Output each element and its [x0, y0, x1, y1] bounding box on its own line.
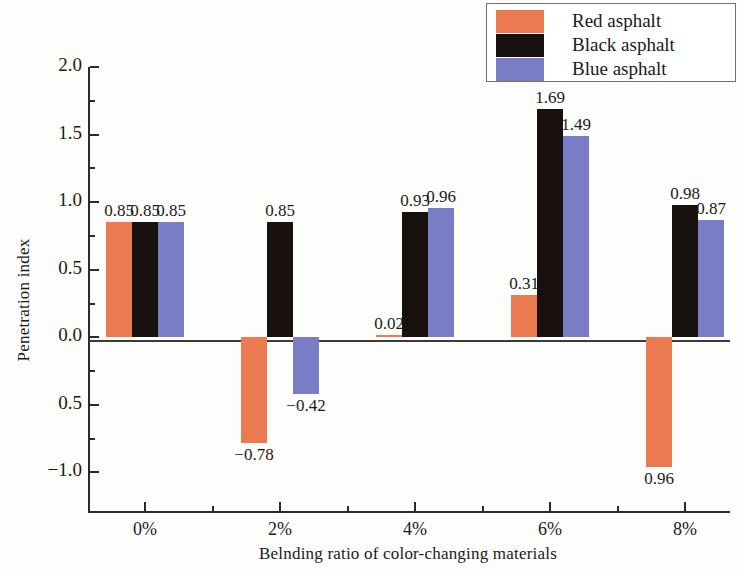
y-tick-major: −1.0 — [90, 471, 99, 473]
bar — [267, 222, 293, 337]
y-axis-title: Penetration index — [14, 200, 34, 400]
x-tick-minor — [212, 506, 214, 511]
x-tick-minor — [347, 506, 349, 511]
y-tick-label: 0.5 — [58, 393, 82, 413]
bar — [563, 136, 589, 337]
y-tick-label: 1.5 — [58, 123, 82, 143]
x-tick-label: 8% — [645, 519, 725, 540]
y-tick-major: 0.5 — [90, 269, 99, 271]
bar-chart-figure: Penetration index Belnding ratio of colo… — [0, 0, 742, 574]
bar-value-label: 0.85 — [141, 201, 201, 220]
y-tick-label: −1.0 — [48, 460, 82, 480]
x-axis-line — [88, 511, 730, 513]
bar-value-label: −0.42 — [276, 396, 336, 415]
bar — [241, 337, 267, 442]
zero-baseline — [88, 340, 730, 342]
y-tick-minor — [90, 303, 95, 305]
x-tick-minor — [617, 506, 619, 511]
x-tick-label: 4% — [375, 519, 455, 540]
bar-value-label: 1.49 — [546, 115, 606, 134]
bar — [158, 222, 184, 337]
legend-swatch-black — [496, 34, 544, 57]
y-tick-label: 2.0 — [58, 55, 82, 75]
bar — [646, 337, 672, 467]
legend-label: Blue asphalt — [572, 56, 666, 81]
bar — [376, 335, 402, 338]
bar — [402, 212, 428, 338]
bar — [511, 295, 537, 337]
y-tick-major: 1.5 — [90, 134, 99, 136]
y-tick-major: 2.0 — [90, 66, 99, 68]
x-tick-label: 6% — [510, 519, 590, 540]
x-tick-label: 0% — [105, 519, 185, 540]
x-tick-label: 2% — [240, 519, 320, 540]
y-tick-minor — [90, 100, 95, 102]
bar — [428, 208, 454, 338]
x-tick-minor — [482, 506, 484, 511]
x-tick-major — [549, 502, 551, 511]
bar — [132, 222, 158, 337]
legend-swatch-blue — [496, 58, 544, 81]
bar — [672, 205, 698, 337]
y-tick-minor — [90, 438, 95, 440]
bar — [106, 222, 132, 337]
y-tick-label: 1.0 — [58, 190, 82, 210]
bar — [537, 109, 563, 337]
bar-value-label: 1.69 — [520, 88, 580, 107]
legend-label: Black asphalt — [572, 32, 675, 57]
bar — [293, 337, 319, 394]
x-axis-title: Belnding ratio of color-changing materia… — [88, 544, 728, 564]
y-tick-label: 0.5 — [58, 258, 82, 278]
bar-value-label: 0.96 — [629, 469, 689, 488]
legend-label: Red asphalt — [572, 8, 661, 33]
y-tick-minor — [90, 370, 95, 372]
x-tick-major — [279, 502, 281, 511]
x-tick-major — [414, 502, 416, 511]
bar-value-label: −0.78 — [224, 445, 284, 464]
x-tick-major — [144, 502, 146, 511]
chart-legend: Red asphaltBlack asphaltBlue asphalt — [486, 3, 736, 82]
plot-area: 2.01.51.00.50.00.5−1.0 0.850.850.85−0.78… — [88, 67, 730, 513]
bar-value-label: 0.87 — [681, 199, 741, 218]
y-tick-major: 0.0 — [90, 336, 99, 338]
y-tick-minor — [90, 167, 95, 169]
bar-value-label: 0.85 — [250, 201, 310, 220]
bar — [698, 220, 724, 338]
y-tick-major: 0.5 — [90, 404, 99, 406]
legend-swatch-red — [496, 10, 544, 33]
y-tick-label: 0.0 — [58, 325, 82, 345]
bar-value-label: 0.96 — [411, 187, 471, 206]
x-tick-major — [684, 502, 686, 511]
y-tick-minor — [90, 235, 95, 237]
